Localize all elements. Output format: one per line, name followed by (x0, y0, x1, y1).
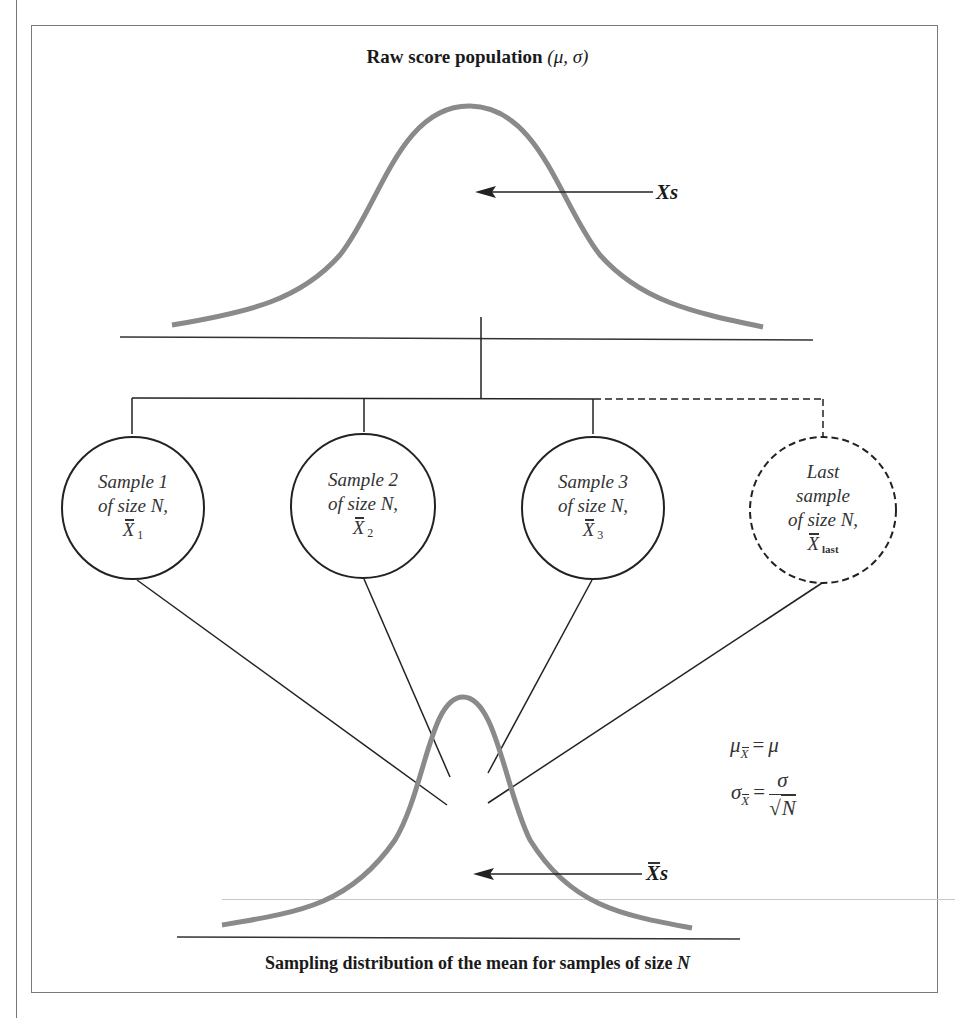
population-title: Raw score population (μ, σ) (0, 46, 955, 68)
sample-label-1: Sample 1 of size N, X1 (63, 470, 203, 547)
sample-last-title-2: sample (753, 484, 893, 508)
sqrt-icon: √ (769, 796, 781, 820)
sampling-distribution-curve (222, 697, 692, 928)
sampling-arrow-label: Xs (646, 861, 668, 886)
sample-2-size: of size N, (293, 492, 433, 516)
population-curve (172, 106, 763, 327)
population-baseline (120, 337, 813, 340)
sample-line-2 (364, 579, 450, 777)
sample-1-title: Sample 1 (63, 470, 203, 494)
sample-1-size: of size N, (63, 494, 203, 518)
sample-3-size: of size N, (523, 494, 663, 518)
sample-line-1 (137, 580, 447, 805)
sample-label-2: Sample 2 of size N, X2 (293, 468, 433, 545)
formula-standard-error: σX=σ√N (731, 768, 796, 821)
population-title-text: Raw score population (367, 46, 543, 67)
sample-2-mean: X2 (293, 516, 433, 545)
sampling-distribution-title: Sampling distribution of the mean for sa… (0, 953, 955, 974)
sample-last-title-1: Last (753, 460, 893, 484)
population-arrow-label: Xs (656, 180, 678, 205)
sample-label-last: Last sample of size N, Xlast (753, 460, 893, 561)
branch-line (132, 398, 594, 399)
sample-3-mean: X3 (523, 518, 663, 547)
sample-last-size: of size N, (753, 508, 893, 532)
sample-3-title: Sample 3 (523, 470, 663, 494)
sampling-baseline (177, 937, 740, 939)
population-params: (μ, σ) (547, 46, 588, 67)
sample-last-mean: Xlast (753, 532, 893, 561)
sample-2-title: Sample 2 (293, 468, 433, 492)
fraction: σ√N (769, 768, 796, 821)
sample-label-3: Sample 3 of size N, X3 (523, 470, 663, 547)
sample-1-mean: X1 (63, 518, 203, 547)
formula-mean: μX=μ (730, 733, 779, 762)
